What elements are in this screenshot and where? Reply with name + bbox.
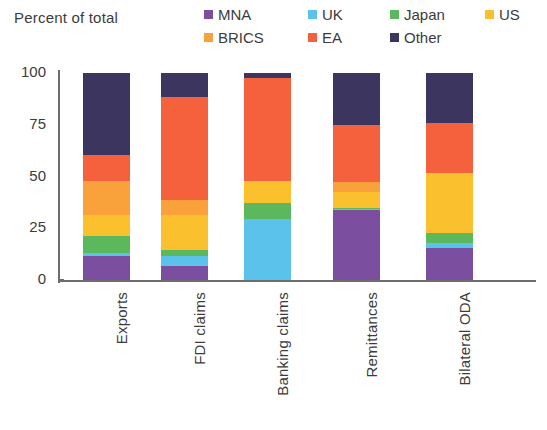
legend-item-brics[interactable]: BRICS [204,30,264,45]
bar-segment-japan [83,236,130,254]
bar-segment-mna [83,256,130,280]
legend-swatch-icon [485,10,494,19]
plot-area [58,73,536,280]
legend-swatch-icon [390,33,399,42]
bar-segment-us [333,192,380,208]
y-tick-label: 0 [0,272,46,286]
legend-item-label: BRICS [218,30,264,45]
bar-segment-brics [161,200,208,214]
stacked-bar-chart: Percent of total MNAUKJapanUSBRICSEAOthe… [0,0,547,430]
bar-segment-us [83,215,130,236]
bar-segment-other [333,73,380,125]
y-tick-label: 50 [0,169,46,183]
x-axis-label-bilateral-oda: Bilateral ODA [456,292,473,385]
bar-segment-other [426,73,473,123]
legend-item-uk[interactable]: UK [308,7,343,22]
x-axis-label-remittances: Remittances [363,292,380,378]
legend-item-label: MNA [218,7,251,22]
bar-segment-japan [244,203,291,219]
chart-legend: MNAUKJapanUSBRICSEAOther [204,5,544,53]
legend-item-other[interactable]: Other [390,30,442,45]
bar-segment-us [161,215,208,250]
legend-swatch-icon [308,10,317,19]
bar-segment-mna [426,248,473,280]
bar-segment-ea [161,97,208,201]
bar-segment-ea [333,125,380,182]
bar-segment-ea [244,78,291,180]
bar-segment-other [83,73,130,155]
y-tick-label: 75 [0,117,46,131]
bar-segment-us [244,181,291,204]
legend-item-label: US [499,7,520,22]
y-tick-label: 25 [0,220,46,234]
legend-swatch-icon [308,33,317,42]
bar-segment-brics [83,181,130,215]
legend-swatch-icon [204,10,213,19]
x-axis-line [58,280,536,282]
legend-swatch-icon [204,33,213,42]
y-axis-title: Percent of total [14,9,118,26]
bar-segment-brics [333,182,380,192]
legend-item-label: EA [322,30,342,45]
legend-item-label: Other [404,30,442,45]
legend-item-japan[interactable]: Japan [390,7,445,22]
bar-remittances[interactable] [333,73,380,280]
bar-exports[interactable] [83,73,130,280]
x-axis-label-banking-claims: Banking claims [274,292,291,396]
bar-segment-uk [244,219,291,280]
bar-fdi-claims[interactable] [161,73,208,280]
bar-segment-mna [161,266,208,280]
bar-segment-ea [426,123,473,174]
x-axis-label-fdi-claims: FDI claims [191,292,208,365]
legend-item-ea[interactable]: EA [308,30,342,45]
bar-segment-uk [161,256,208,265]
bar-segment-mna [333,210,380,280]
legend-item-mna[interactable]: MNA [204,7,251,22]
y-tick-label: 100 [0,65,46,79]
legend-item-us[interactable]: US [485,7,520,22]
legend-swatch-icon [390,10,399,19]
bar-segment-us [426,173,473,233]
x-axis-label-exports: Exports [113,292,130,344]
legend-item-label: UK [322,7,343,22]
bar-segment-other [161,73,208,97]
legend-item-label: Japan [404,7,445,22]
bar-banking-claims[interactable] [244,73,291,280]
bar-segment-japan [426,233,473,242]
bar-segment-ea [83,155,130,181]
bar-bilateral-oda[interactable] [426,73,473,280]
